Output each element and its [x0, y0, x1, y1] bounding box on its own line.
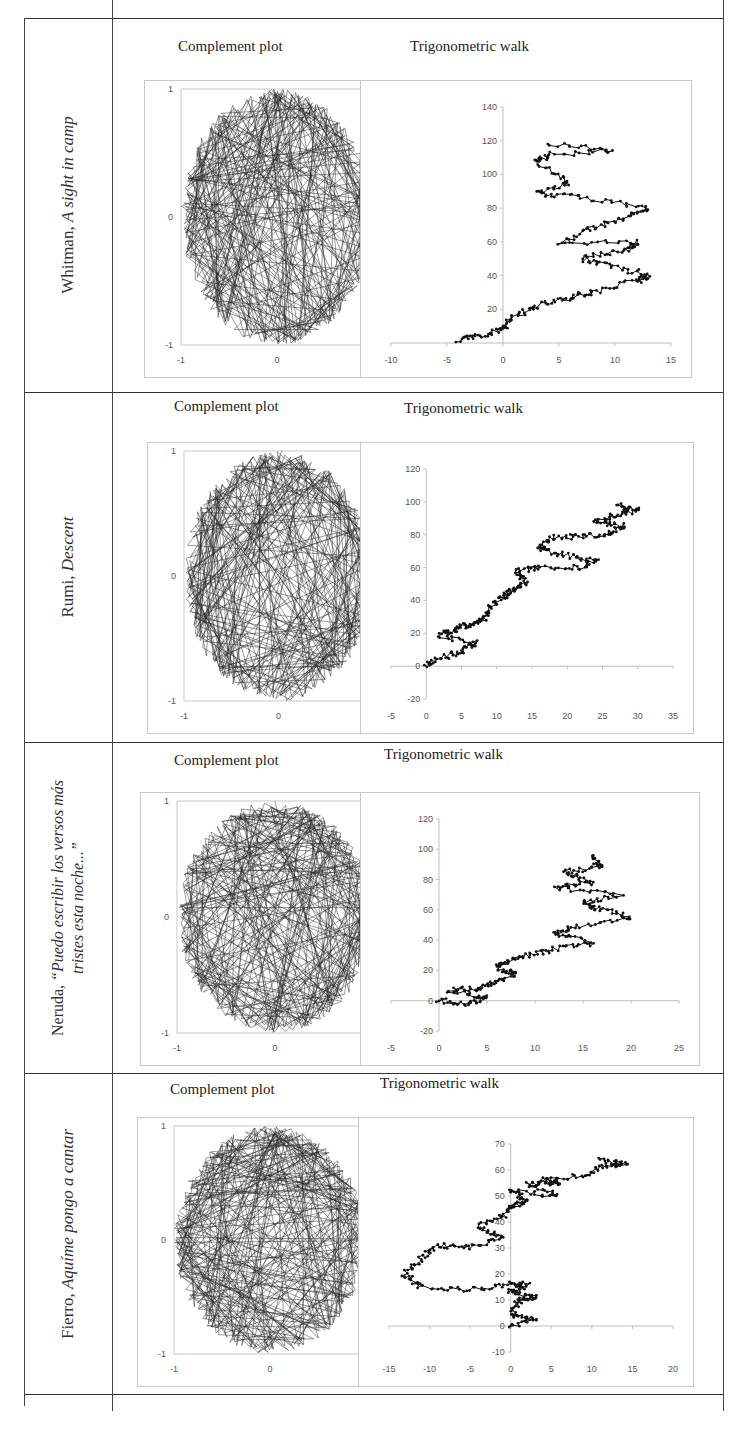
svg-text:30: 30 [633, 711, 643, 721]
svg-text:15: 15 [666, 355, 676, 365]
svg-text:10: 10 [610, 355, 620, 365]
trig-walk-plot: -20020406080100120-505101520253035 [360, 442, 694, 734]
svg-text:40: 40 [487, 271, 497, 281]
poem-label: Rumi, Descent [57, 516, 79, 617]
trig-walk-canvas: 20406080100120140-10-5051015 [361, 81, 691, 377]
complement-plot-canvas: 10-1-101 [138, 1118, 378, 1386]
svg-text:-20: -20 [420, 1026, 433, 1036]
svg-text:0: 0 [276, 711, 281, 721]
trig-walk-plot: 20406080100120140-10-5051015 [360, 80, 692, 378]
svg-text:5: 5 [556, 355, 561, 365]
svg-text:25: 25 [597, 711, 607, 721]
svg-text:100: 100 [418, 844, 433, 854]
complement-plot-canvas: 10-1-101 [148, 443, 385, 733]
svg-text:25: 25 [674, 1043, 684, 1053]
svg-text:70: 70 [495, 1139, 505, 1149]
svg-text:-1: -1 [177, 355, 185, 365]
trig-walk-caption: Trigonometric walk [384, 746, 503, 763]
svg-text:60: 60 [410, 563, 420, 573]
svg-text:30: 30 [495, 1243, 505, 1253]
poem-label-cell: Neruda, “Puedo escribir los versos más t… [24, 742, 112, 1073]
svg-text:5: 5 [484, 1043, 489, 1053]
svg-text:0: 0 [415, 661, 420, 671]
complement-plot-caption: Complement plot [178, 38, 283, 55]
svg-text:5: 5 [459, 711, 464, 721]
trig-walk-caption: Trigonometric walk [410, 38, 529, 55]
svg-text:0: 0 [267, 1364, 272, 1374]
svg-text:0: 0 [424, 711, 429, 721]
svg-text:20: 20 [495, 1269, 505, 1279]
trig-walk-canvas: -10010203040506070-15-10-505101520 [359, 1118, 693, 1386]
complement-plot-canvas: 10-1-101 [145, 81, 385, 377]
svg-text:100: 100 [405, 497, 420, 507]
table-row: Rumi, Descent Complement plot Trigonomet… [24, 392, 724, 742]
complement-plot: 10-1-101 [140, 792, 386, 1066]
svg-text:60: 60 [423, 905, 433, 915]
svg-text:20: 20 [410, 628, 420, 638]
svg-text:0: 0 [272, 1043, 277, 1053]
svg-text:100: 100 [482, 169, 497, 179]
svg-text:-10: -10 [384, 355, 397, 365]
complement-plot-caption: Complement plot [170, 1081, 275, 1098]
svg-text:0: 0 [436, 1043, 441, 1053]
svg-text:20: 20 [626, 1043, 636, 1053]
svg-text:35: 35 [668, 711, 678, 721]
svg-text:0: 0 [274, 355, 279, 365]
table-row: Neruda, “Puedo escribir los versos más t… [24, 742, 724, 1073]
svg-text:120: 120 [418, 814, 433, 824]
poem-label-cell: Fierro, Aquíme pongo a cantar [24, 1073, 112, 1394]
svg-text:10: 10 [587, 1364, 597, 1374]
svg-text:0: 0 [428, 996, 433, 1006]
trig-walk-plot: -10010203040506070-15-10-505101520 [358, 1117, 694, 1387]
poem-label-cell: Rumi, Descent [24, 392, 112, 742]
poem-label: Neruda, “Puedo escribir los versos más t… [48, 780, 88, 1036]
svg-text:-1: -1 [170, 1364, 178, 1374]
svg-text:1: 1 [161, 1121, 166, 1131]
svg-text:-15: -15 [382, 1364, 395, 1374]
svg-text:-20: -20 [407, 694, 420, 704]
complement-plot-canvas: 10-1-101 [141, 793, 385, 1065]
svg-text:0: 0 [164, 912, 169, 922]
svg-text:40: 40 [423, 935, 433, 945]
complement-plot-caption: Complement plot [174, 398, 279, 415]
svg-text:15: 15 [627, 1364, 637, 1374]
svg-text:1: 1 [171, 446, 176, 456]
svg-text:60: 60 [487, 237, 497, 247]
svg-text:-5: -5 [387, 1043, 395, 1053]
complement-plot: 10-1-101 [147, 442, 386, 734]
poem-label: Whitman, A sight in camp [57, 116, 79, 294]
svg-text:1: 1 [164, 796, 169, 806]
svg-text:20: 20 [668, 1364, 678, 1374]
svg-text:-1: -1 [173, 1043, 181, 1053]
svg-text:0: 0 [171, 571, 176, 581]
complement-plot-caption: Complement plot [174, 752, 279, 769]
svg-text:-5: -5 [443, 355, 451, 365]
trig-walk-canvas: -20020406080100120-505101520253035 [361, 443, 693, 733]
trig-walk-caption: Trigonometric walk [380, 1075, 499, 1092]
svg-text:-1: -1 [165, 340, 173, 350]
svg-text:0: 0 [161, 1235, 166, 1245]
svg-text:20: 20 [423, 965, 433, 975]
table-bottom-border [24, 1394, 724, 1395]
svg-text:-5: -5 [387, 711, 395, 721]
svg-text:0: 0 [500, 355, 505, 365]
svg-text:10: 10 [495, 1295, 505, 1305]
svg-text:0: 0 [500, 1321, 505, 1331]
trig-walk-caption: Trigonometric walk [404, 400, 523, 417]
svg-text:120: 120 [482, 136, 497, 146]
svg-text:-10: -10 [492, 1347, 505, 1357]
table-row: Whitman, A sight in camp Complement plot… [24, 18, 724, 392]
svg-text:60: 60 [495, 1165, 505, 1175]
svg-text:-10: -10 [423, 1364, 436, 1374]
trig-walk-canvas: -20020406080100120-50510152025 [361, 793, 699, 1065]
svg-text:120: 120 [405, 464, 420, 474]
poem-label-cell: Whitman, A sight in camp [24, 18, 112, 392]
svg-text:-1: -1 [168, 696, 176, 706]
svg-text:20: 20 [562, 711, 572, 721]
complement-plot: 10-1-101 [137, 1117, 379, 1387]
trig-walk-plot: -20020406080100120-50510152025 [360, 792, 700, 1066]
svg-text:10: 10 [492, 711, 502, 721]
svg-text:5: 5 [549, 1364, 554, 1374]
svg-text:-1: -1 [158, 1349, 166, 1359]
poem-label: Fierro, Aquíme pongo a cantar [57, 1128, 79, 1338]
